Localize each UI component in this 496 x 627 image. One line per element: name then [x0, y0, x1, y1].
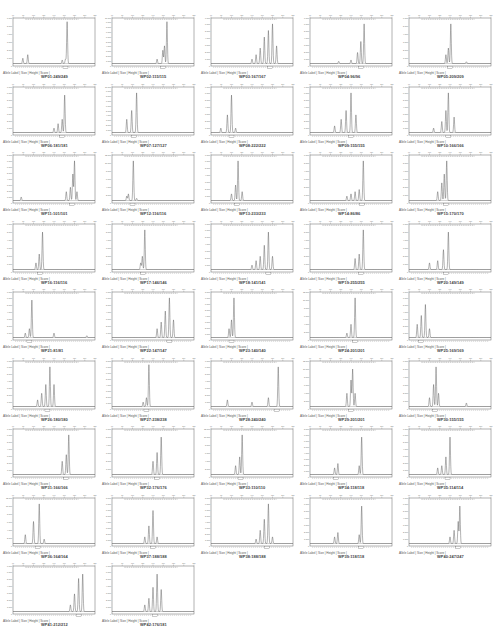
svg-text:80: 80	[319, 288, 321, 290]
svg-text:140: 140	[53, 425, 56, 427]
svg-text:80: 80	[121, 151, 123, 153]
svg-text:80: 80	[220, 220, 222, 222]
svg-text:1,000: 1,000	[7, 332, 13, 335]
svg-text:2,000: 2,000	[403, 186, 409, 189]
svg-text:5,000: 5,000	[304, 162, 310, 165]
electropherogram-panel: 60801001201401601802002208,0007,0006,000…	[199, 494, 296, 562]
svg-text:140: 140	[251, 14, 254, 16]
svg-text:6,000: 6,000	[106, 36, 112, 39]
sample-id-label: WP02:115/115	[140, 74, 166, 79]
svg-text:160: 160	[360, 288, 363, 290]
svg-text:60: 60	[111, 151, 113, 153]
svg-text:0: 0	[308, 544, 310, 546]
svg-text:2,000: 2,000	[205, 256, 211, 259]
svg-text:10,000: 10,000	[105, 17, 112, 20]
svg-text:2,000: 2,000	[106, 124, 112, 127]
svg-text:5,000: 5,000	[403, 510, 409, 513]
svg-text:60: 60	[309, 14, 311, 16]
svg-text:1,000: 1,000	[106, 606, 112, 609]
svg-text:180: 180	[469, 288, 472, 290]
svg-text:4,000: 4,000	[7, 528, 13, 531]
svg-text:1,000: 1,000	[205, 195, 211, 198]
svg-text:4,000: 4,000	[304, 517, 310, 520]
svg-text:3,000: 3,000	[403, 178, 409, 181]
svg-text:0: 0	[407, 270, 409, 272]
svg-text:0: 0	[11, 613, 13, 615]
svg-text:5,000: 5,000	[7, 230, 13, 233]
svg-text:2,000: 2,000	[304, 399, 310, 402]
svg-text:180: 180	[172, 83, 175, 85]
svg-text:6,000: 6,000	[7, 434, 13, 437]
svg-text:7,000: 7,000	[205, 85, 211, 88]
svg-text:3,000: 3,000	[403, 383, 409, 386]
svg-text:8,000: 8,000	[7, 512, 13, 515]
svg-text:220: 220	[391, 151, 394, 153]
svg-text:180: 180	[172, 357, 175, 359]
sample-id-label: WP06:181/181	[41, 143, 68, 148]
svg-text:100: 100	[32, 562, 35, 564]
svg-text:100: 100	[428, 357, 431, 359]
svg-text:200: 200	[83, 83, 86, 85]
svg-text:80: 80	[220, 151, 222, 153]
svg-text:5,000: 5,000	[403, 99, 409, 102]
svg-text:160: 160	[63, 14, 66, 16]
allele-marker	[152, 614, 157, 617]
electropherogram-panel: 60801001201401601802002206,0005,0004,000…	[298, 220, 395, 288]
svg-text:80: 80	[418, 14, 420, 16]
svg-text:5,000: 5,000	[205, 309, 211, 312]
svg-text:180: 180	[271, 494, 274, 496]
svg-text:80: 80	[319, 425, 321, 427]
electropherogram-panel: 60801001201401601802002208,0007,0006,000…	[199, 288, 296, 356]
sample-id-label: WP42:176/181	[140, 622, 167, 627]
electropherogram-plot: 60801001201401601802002206,0005,0004,000…	[100, 425, 197, 483]
allele-marker	[443, 203, 448, 206]
electropherogram-panel: 60801001201401601802002206,0005,0004,000…	[397, 14, 494, 82]
svg-text:8,000: 8,000	[205, 496, 211, 499]
svg-text:140: 140	[449, 357, 452, 359]
svg-text:0: 0	[110, 407, 112, 409]
svg-text:160: 160	[459, 83, 462, 85]
svg-text:0: 0	[209, 476, 211, 478]
svg-text:0: 0	[110, 339, 112, 341]
svg-text:100: 100	[32, 14, 35, 16]
svg-text:220: 220	[490, 357, 493, 359]
svg-text:140: 140	[350, 83, 353, 85]
svg-text:120: 120	[240, 220, 243, 222]
allele-marker	[349, 409, 354, 412]
svg-text:80: 80	[220, 425, 222, 427]
svg-text:3,000: 3,000	[106, 50, 112, 53]
svg-text:3,000: 3,000	[403, 113, 409, 116]
svg-text:0: 0	[209, 270, 211, 272]
electropherogram-panel: 60801001201401601802002207,0006,0005,000…	[199, 220, 296, 288]
allele-marker	[229, 135, 234, 138]
electropherogram-plot: 60801001201401601802002206,0005,0004,000…	[100, 220, 197, 278]
svg-text:140: 140	[251, 494, 254, 496]
svg-text:200: 200	[182, 562, 185, 564]
sample-id-label: WP08:222/222	[239, 143, 266, 148]
electropherogram-panel: 608010012014016018020022012,00010,0008,0…	[199, 425, 296, 493]
sample-id-label: WP22:147/147	[140, 348, 167, 353]
electropherogram-plot: 60801001201401601802002207,0006,0005,000…	[1, 562, 98, 620]
svg-text:220: 220	[292, 494, 295, 496]
svg-text:100: 100	[131, 220, 134, 222]
svg-text:7,000: 7,000	[7, 428, 13, 431]
svg-text:5,000: 5,000	[403, 441, 409, 444]
allele-marker	[334, 477, 339, 480]
svg-text:200: 200	[380, 83, 383, 85]
svg-text:180: 180	[73, 220, 76, 222]
svg-text:100: 100	[428, 151, 431, 153]
svg-text:7,000: 7,000	[205, 359, 211, 362]
svg-text:60: 60	[210, 14, 212, 16]
svg-text:220: 220	[193, 220, 196, 222]
svg-text:0: 0	[110, 613, 112, 615]
electropherogram-plot: 60801001201401601802002208,0007,0006,000…	[100, 494, 197, 552]
svg-text:80: 80	[22, 562, 24, 564]
svg-text:0: 0	[308, 202, 310, 204]
svg-text:1,000: 1,000	[7, 606, 13, 609]
svg-text:140: 140	[449, 494, 452, 496]
electropherogram-plot: 60801001201401601802002207,0006,0005,000…	[100, 562, 197, 620]
svg-text:4,000: 4,000	[205, 460, 211, 463]
electropherogram-panel: 60801001201401601802002206,0005,0004,000…	[1, 220, 98, 288]
allele-marker	[130, 203, 135, 206]
svg-text:4,000: 4,000	[304, 106, 310, 109]
